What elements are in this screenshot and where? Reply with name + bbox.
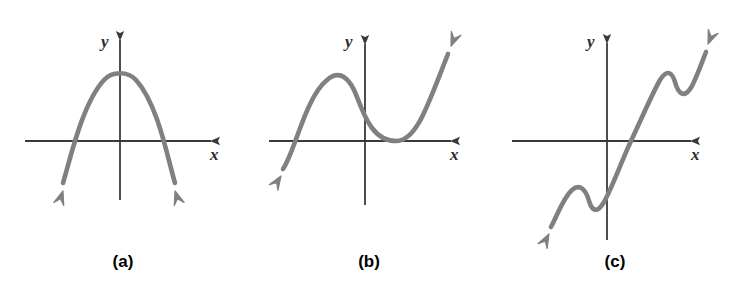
curve-a bbox=[63, 73, 175, 183]
caption-a: (a) bbox=[0, 252, 246, 272]
curve-arrow-right-up-icon bbox=[703, 29, 718, 46]
curve-arrow-left-down-icon bbox=[54, 189, 68, 205]
x-axis-arrow-icon bbox=[450, 137, 460, 145]
y-axis-label: y bbox=[99, 32, 109, 51]
panel-a: xy(a) bbox=[0, 0, 246, 301]
panel-c: xy(c) bbox=[492, 0, 738, 301]
curve-arrow-right-up-icon bbox=[446, 31, 461, 48]
y-axis-arrow-icon bbox=[116, 31, 124, 41]
panel-b: xy(b) bbox=[246, 0, 492, 301]
caption-c: (c) bbox=[492, 252, 738, 272]
curve-c bbox=[551, 52, 706, 227]
y-axis-arrow-icon bbox=[361, 35, 369, 45]
curve-arrow-left-down-icon bbox=[269, 173, 285, 190]
x-axis-label: x bbox=[209, 145, 219, 164]
figure-row: xy(a)xy(b)xy(c) bbox=[0, 0, 738, 301]
x-axis-arrow-icon bbox=[690, 137, 700, 145]
y-axis-arrow-icon bbox=[603, 34, 611, 44]
y-axis-label: y bbox=[343, 32, 353, 51]
caption-b: (b) bbox=[246, 252, 492, 272]
y-axis-label: y bbox=[585, 32, 595, 51]
curve-arrow-right-down-icon bbox=[170, 189, 184, 205]
x-axis-label: x bbox=[449, 145, 459, 164]
x-axis-arrow-icon bbox=[210, 137, 220, 145]
curve-arrow-left-down-icon bbox=[538, 232, 554, 249]
x-axis-label: x bbox=[690, 145, 700, 164]
